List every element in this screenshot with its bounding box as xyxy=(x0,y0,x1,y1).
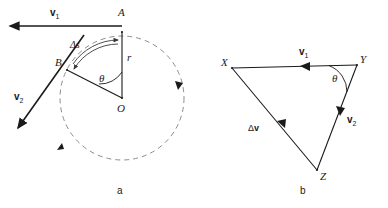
point-marker-Y xyxy=(356,64,358,66)
label-v2-b: v2 xyxy=(347,115,356,127)
arrowhead-v1-b xyxy=(300,62,310,71)
label-v1-a: v1 xyxy=(50,8,59,20)
label-point-O: O xyxy=(117,103,125,114)
triangle-side-XZ xyxy=(232,68,317,170)
arc-delta-s-secondary xyxy=(74,44,118,69)
label-point-B: B xyxy=(55,57,62,68)
label-angle-theta-a: θ xyxy=(99,73,104,84)
panel-b-graphics xyxy=(231,62,358,171)
label-v1-b: v1 xyxy=(299,47,308,59)
caption-panel-a: a xyxy=(117,186,123,196)
physics-figure: v1 A B O Δs r θ v2 a X Y Z v1 v2 Δv θ b xyxy=(0,0,388,208)
label-point-A: A xyxy=(118,7,125,18)
circle-direction-marker-bottom-left xyxy=(57,143,64,150)
label-point-Z: Z xyxy=(320,171,326,182)
point-marker-B xyxy=(66,69,68,71)
label-delta-v: Δv xyxy=(248,124,259,133)
arrowhead-v2-b xyxy=(336,106,345,116)
radius-line-OB xyxy=(67,70,122,98)
point-marker-A xyxy=(121,31,123,33)
label-radius-r: r xyxy=(127,52,131,63)
caption-panel-b: b xyxy=(300,186,306,196)
point-marker-O xyxy=(121,97,123,99)
point-marker-Z xyxy=(316,169,318,171)
triangle-side-YX xyxy=(232,65,357,68)
diagram-canvas xyxy=(0,0,388,208)
panel-a-graphics xyxy=(10,26,184,160)
label-angle-theta-b: θ xyxy=(332,73,337,84)
label-arc-delta-s: Δs xyxy=(70,40,80,50)
label-point-X: X xyxy=(221,57,228,68)
label-point-Y: Y xyxy=(360,54,366,65)
label-v2-a: v2 xyxy=(14,92,23,104)
point-marker-X xyxy=(231,67,233,69)
